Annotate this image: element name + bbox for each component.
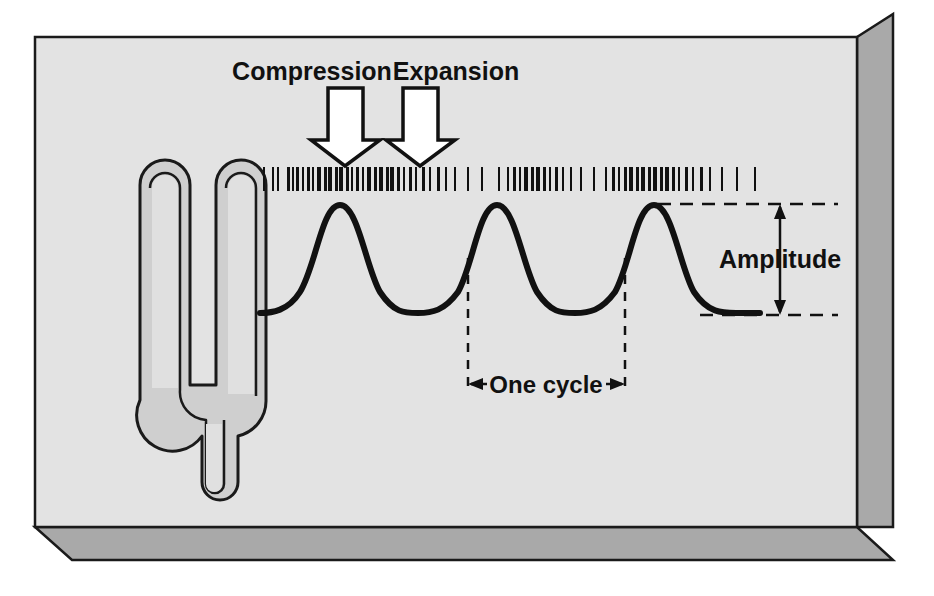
panel-bottom-face	[35, 527, 893, 560]
compression-label: Compression	[232, 57, 392, 85]
one-cycle-label: One cycle	[489, 371, 602, 398]
tuning-fork-stem-face	[206, 424, 222, 492]
tuning-fork-left-prong-face	[152, 175, 178, 388]
figure-canvas: Amplitude One cycle Compression Expansio…	[0, 0, 934, 596]
tuning-fork-right-prong-face	[228, 175, 254, 394]
amplitude-label: Amplitude	[719, 245, 841, 273]
panel-right-face	[857, 14, 893, 527]
expansion-label: Expansion	[393, 57, 519, 85]
